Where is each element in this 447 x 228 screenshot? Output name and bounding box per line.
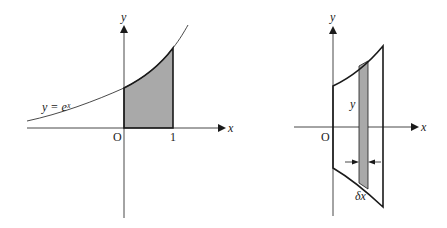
shaded-strip (359, 61, 368, 189)
x-axis-arrow-icon (411, 123, 419, 131)
x-axis-label: x (227, 121, 234, 135)
y-axis-arrow-icon (120, 25, 128, 33)
left-panel: y x O 1 y = eˣ (27, 10, 234, 218)
y-axis-arrow-icon (329, 26, 337, 34)
x-axis-arrow-icon (218, 124, 226, 132)
curve-label: y = eˣ (41, 100, 71, 114)
dx-arrowhead-left-icon (352, 160, 359, 165)
dx-arrowhead-right-icon (368, 160, 375, 165)
diagram-canvas: y x O 1 y = eˣ y x O y δx (0, 0, 447, 228)
y-axis-label: y (329, 10, 336, 24)
x-axis-label: x (420, 120, 427, 134)
strip-height-label: y (349, 97, 356, 111)
tick-label-1: 1 (170, 130, 176, 144)
solid-outline (333, 46, 383, 207)
y-axis-label: y (120, 10, 127, 24)
origin-label: O (113, 130, 122, 144)
strip-width-label: δx (355, 189, 367, 203)
shaded-area (124, 48, 173, 128)
origin-label: O (321, 130, 330, 144)
right-panel: y x O y δx (294, 10, 427, 216)
